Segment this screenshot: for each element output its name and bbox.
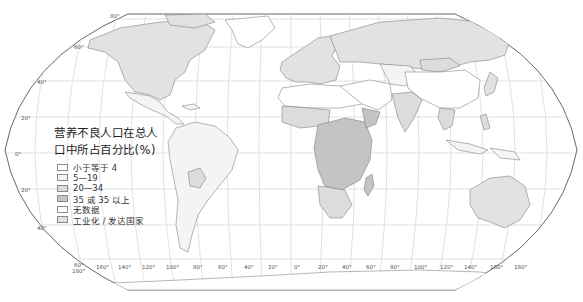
lon-label: 0° xyxy=(294,264,300,270)
map-legend: 营养不良人口在总人 口中所占百分比(%) 小于等于 4 5—19 20—34 3… xyxy=(54,125,158,225)
swatch-industrial xyxy=(57,216,68,223)
lon-label: 100° xyxy=(166,264,179,270)
lat-label-20s: 20° xyxy=(21,187,31,193)
lon-label: 140° xyxy=(464,264,477,270)
legend-title-line2: 口中所占百分比(%) xyxy=(54,142,158,159)
lon-label: 20° xyxy=(318,264,328,270)
lon-label: 180° xyxy=(72,268,85,274)
lon-label: 20° xyxy=(268,264,278,270)
lon-label: 40° xyxy=(342,264,352,270)
lon-label: 80° xyxy=(390,264,400,270)
lon-label: 40° xyxy=(244,264,254,270)
lat-label-60n: 60° xyxy=(74,44,84,50)
swatch-lt4 xyxy=(57,164,68,171)
lon-label: 80° xyxy=(193,264,203,270)
lon-label: 120° xyxy=(440,264,453,270)
legend-title-line1: 营养不良人口在总人 xyxy=(54,125,158,142)
lat-label-40n: 40° xyxy=(37,79,47,85)
lon-label: 160° xyxy=(490,264,503,270)
lon-label: 100° xyxy=(414,264,427,270)
lon-label: 160° xyxy=(96,264,109,270)
lon-label: 120° xyxy=(142,264,155,270)
legend-label: 小于等于 4 xyxy=(73,161,117,173)
legend-label: 5—19 xyxy=(73,173,98,183)
lat-label-0: 0° xyxy=(15,151,21,157)
lon-label: 140° xyxy=(118,264,131,270)
swatch-ge35 xyxy=(57,195,68,202)
swatch-20-34 xyxy=(57,185,68,192)
lat-label-40s: 40° xyxy=(37,225,47,231)
legend-label: 工业化 / 发达国家 xyxy=(73,214,144,226)
swatch-5-19 xyxy=(57,174,68,181)
lon-label: 60° xyxy=(218,264,228,270)
legend-item-5-19: 5—19 xyxy=(57,173,158,184)
lon-label: 60° xyxy=(366,264,376,270)
lat-label-80n: 80° xyxy=(110,13,120,19)
legend-label: 20—34 xyxy=(73,183,103,193)
legend-item-lt4: 小于等于 4 xyxy=(57,162,158,173)
legend-item-industrial: 工业化 / 发达国家 xyxy=(57,215,158,226)
lon-label: 180° xyxy=(514,264,527,270)
lat-label-20n: 20° xyxy=(21,115,31,121)
swatch-nodata xyxy=(57,206,68,213)
